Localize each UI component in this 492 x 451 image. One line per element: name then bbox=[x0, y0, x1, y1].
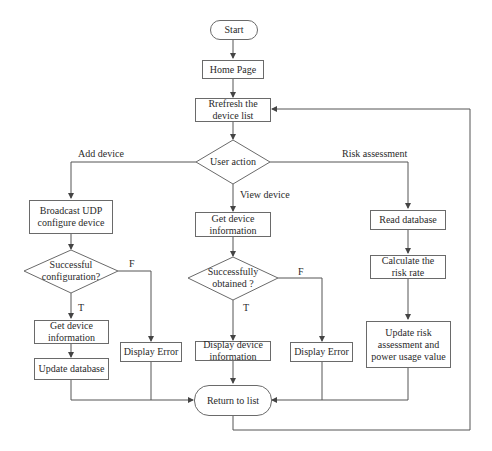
edge-label-add-device: Add device bbox=[78, 148, 124, 159]
edge-label-mid-true: T bbox=[243, 302, 249, 313]
edge-label-left-true: T bbox=[78, 302, 84, 313]
flowchart-canvas: Start Home Page Rrefresh the device list… bbox=[0, 0, 492, 451]
successfully-obtained-label: Successfully obtained ? bbox=[192, 266, 274, 290]
edge-label-view-device: View device bbox=[240, 189, 290, 200]
display-device-info-node: Display device information bbox=[195, 341, 271, 361]
return-to-list-node: Return to list bbox=[194, 385, 272, 416]
calculate-risk-rate-node: Calculate the risk rate bbox=[370, 255, 446, 279]
get-device-info-mid-label: Get device information bbox=[209, 213, 256, 237]
display-error-mid-label: Display Error bbox=[294, 346, 349, 358]
edge-label-risk-assessment: Risk assessment bbox=[342, 148, 407, 159]
display-error-left-label: Display Error bbox=[124, 346, 179, 358]
update-risk-label: Update risk assessment and power usage v… bbox=[371, 327, 445, 363]
start-node: Start bbox=[210, 20, 258, 40]
get-device-info-left-node: Get device information bbox=[34, 320, 109, 344]
successful-configuration-label: Successful configuration? bbox=[28, 259, 114, 283]
update-database-node: Update database bbox=[34, 358, 109, 380]
broadcast-udp-node: Broadcast UDP configure device bbox=[29, 200, 113, 234]
get-device-info-left-label: Get device information bbox=[48, 320, 95, 344]
display-error-left-node: Display Error bbox=[120, 342, 182, 362]
display-device-info-label: Display device information bbox=[203, 339, 263, 363]
return-to-list-label: Return to list bbox=[207, 395, 259, 407]
home-page-label: Home Page bbox=[210, 64, 256, 76]
calculate-risk-rate-label: Calculate the risk rate bbox=[382, 255, 434, 279]
user-action-label: User action bbox=[196, 155, 270, 169]
read-database-label: Read database bbox=[379, 214, 436, 226]
broadcast-udp-label: Broadcast UDP configure device bbox=[38, 205, 105, 229]
update-risk-node: Update risk assessment and power usage v… bbox=[366, 321, 451, 368]
display-error-mid-node: Display Error bbox=[290, 342, 353, 362]
home-page-node: Home Page bbox=[202, 60, 264, 79]
update-database-label: Update database bbox=[39, 363, 105, 375]
get-device-info-mid-node: Get device information bbox=[195, 212, 271, 237]
edge-label-left-false: F bbox=[129, 258, 135, 269]
refresh-list-node: Rrefresh the device list bbox=[195, 98, 271, 122]
refresh-list-label: Rrefresh the device list bbox=[208, 98, 257, 122]
edge-label-mid-false: F bbox=[298, 266, 304, 277]
read-database-node: Read database bbox=[370, 210, 446, 230]
start-label: Start bbox=[225, 24, 244, 36]
